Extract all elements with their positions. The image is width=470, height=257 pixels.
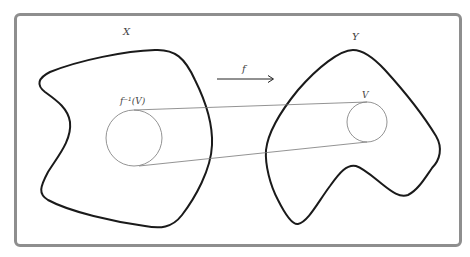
preimage-circle — [106, 110, 162, 166]
open-set-circle — [347, 102, 387, 142]
label-space-y: Y — [352, 31, 360, 42]
space-x-boundary — [39, 50, 212, 227]
label-preimage: f⁻¹(V) — [119, 96, 146, 106]
space-y-boundary — [266, 50, 440, 224]
lower-connector-line — [139, 142, 367, 166]
diagram-canvas: X Y f f⁻¹(V) V — [0, 0, 470, 257]
upper-connector-line — [134, 102, 367, 110]
map-arrow — [217, 76, 274, 83]
label-open-set-v: V — [362, 90, 370, 100]
label-map-f: f — [241, 63, 248, 74]
label-space-x: X — [122, 26, 131, 37]
